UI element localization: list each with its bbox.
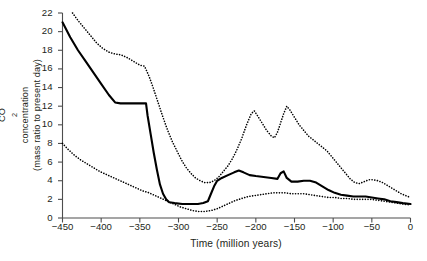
- x-axis-title: Time (million years): [62, 238, 410, 249]
- co2-concentration-chart: CO2 concentration (mass ratio to present…: [0, 0, 427, 261]
- y-tick-label: 8: [27, 138, 53, 148]
- axis-spines: [63, 13, 411, 218]
- y-tick-label: 2: [27, 194, 53, 204]
- series-upper-bound: [73, 13, 411, 198]
- y-tick-label: 20: [27, 26, 53, 36]
- y-tick-label: 18: [27, 45, 53, 55]
- y-tick-label: 22: [27, 8, 53, 18]
- series-lower-bound: [63, 143, 411, 211]
- x-tick-label: 0: [388, 222, 427, 232]
- y-tick-label: 14: [27, 82, 53, 92]
- y-tick-label: 0: [27, 213, 53, 223]
- y-tick-label: 4: [27, 175, 53, 185]
- y-tick-label: 12: [27, 101, 53, 111]
- y-tick-label: 10: [27, 119, 53, 129]
- y-tick-label: 16: [27, 63, 53, 73]
- y-tick-label: 6: [27, 157, 53, 167]
- series-best-estimate: [63, 22, 411, 204]
